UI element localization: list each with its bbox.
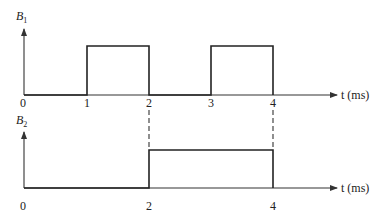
b2-tick-4: 4	[270, 199, 276, 213]
b1-signal-waveform	[24, 46, 273, 95]
b2-signal-waveform	[24, 150, 273, 188]
b1-time-axis-label: t (ms)	[341, 88, 369, 102]
b1-tick-0: 0	[20, 96, 26, 110]
timing-diagram: B1 t (ms) 0 1 2 3 4 B2 t (ms) 0 2 4	[0, 0, 388, 223]
b2-axis-label: B2	[16, 113, 27, 129]
b2-tick-2: 2	[146, 199, 152, 213]
plot-b1: B1 t (ms) 0 1 2 3 4	[16, 9, 369, 110]
b1-tick-1: 1	[84, 96, 90, 110]
b1-tick-3: 3	[208, 96, 214, 110]
b1-axis-label: B1	[16, 9, 27, 25]
plot-b2: B2 t (ms) 0 2 4	[16, 113, 369, 213]
b2-time-axis-label: t (ms)	[341, 181, 369, 195]
b1-tick-2: 2	[146, 96, 152, 110]
b1-tick-4: 4	[270, 96, 276, 110]
b2-tick-0: 0	[20, 199, 26, 213]
